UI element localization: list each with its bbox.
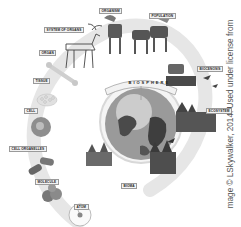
label-biocenosis: BIOCENOSIS [197,66,223,72]
label-cell: CELL [24,108,38,114]
label-organ: ORGAN [39,50,56,56]
label-bioma: BIOMA [121,183,137,189]
image-credit: mage © LSkywalker, 2014. Used under lice… [226,20,235,209]
biological-organization-diagram: ATOM MOLECULE CELL ORGANELLES CELL TISSU… [0,0,241,227]
cell-icon [31,117,51,137]
label-population: POPULATION [149,13,176,19]
label-biosphere: BIOSPHERE [127,81,172,85]
label-atom: ATOM [74,204,89,210]
label-organism: ORGANISM [99,8,122,14]
label-molecule: MOLECULE [35,179,59,185]
label-system-of-organs: SYSTEM OF ORGANS [44,27,84,33]
tissue-icon [37,94,57,106]
label-cell-organelles: CELL ORGANELLES [9,146,47,152]
label-tissue: TISSUE [33,78,50,84]
